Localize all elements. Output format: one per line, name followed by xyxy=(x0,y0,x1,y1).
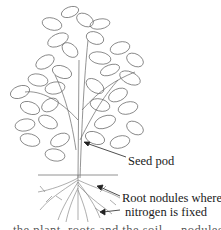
root-system xyxy=(38,175,120,222)
caption-partial-text: ...the plant, roots and the soil ... nod… xyxy=(2,223,221,230)
caption-partial: ...the plant, roots and the soil ... nod… xyxy=(0,223,221,230)
root-nodule-arrows xyxy=(97,185,120,215)
root-nodules-label-line1: Root nodules where xyxy=(122,191,221,205)
seed-pod-label: Seed pod xyxy=(128,154,174,168)
leaf-cluster xyxy=(9,4,146,162)
seed-pod-arrow xyxy=(84,142,126,157)
root-nodules-label: Root nodules where nitrogen is fixed xyxy=(122,191,221,219)
root-nodules-label-line2: nitrogen is fixed xyxy=(125,205,221,219)
plant-foliage xyxy=(9,4,146,178)
